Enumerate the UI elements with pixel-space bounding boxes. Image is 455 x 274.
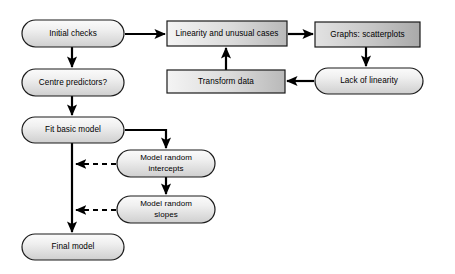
node-fit-basic-model[interactable] [22, 117, 124, 143]
connector-fit-to-intercepts [125, 130, 166, 148]
node-centre-predictors[interactable] [22, 69, 124, 96]
node-model-random-intercepts[interactable] [117, 150, 215, 177]
node-linearity-unusual-cases[interactable] [167, 21, 287, 46]
node-model-random-slopes[interactable] [117, 196, 215, 223]
node-transform-data[interactable] [167, 70, 285, 93]
node-initial-checks[interactable] [22, 20, 124, 47]
node-final-model[interactable] [22, 234, 124, 260]
flowchart-canvas: Initial checks Centre predictors? Fit ba… [0, 0, 455, 274]
flowchart-svg [0, 0, 455, 274]
node-shape-layer [22, 20, 423, 260]
node-lack-of-linearity[interactable] [315, 68, 423, 94]
node-graphs-scatterplots[interactable] [315, 22, 420, 47]
